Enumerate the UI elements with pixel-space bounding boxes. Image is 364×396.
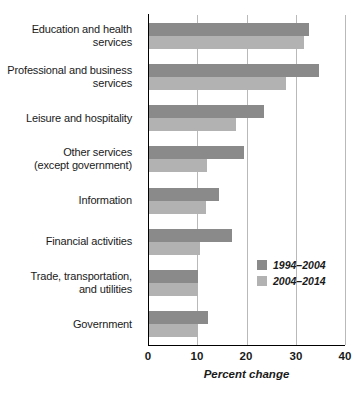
bar (148, 23, 309, 36)
x-tick-20: 20 (240, 350, 253, 362)
category-label-financial-activities: Financial activities (46, 235, 132, 248)
bar (148, 146, 244, 159)
x-tick-10: 10 (191, 350, 204, 362)
legend-swatch-icon-1994-2004 (257, 260, 267, 270)
legend-item-2004-2014: 2004–2014 (257, 274, 326, 288)
legend: 1994–2004 2004–2014 (257, 258, 326, 290)
bar (148, 201, 206, 214)
x-tick-40: 40 (339, 350, 352, 362)
legend-swatch-icon-2004-2014 (257, 276, 267, 286)
bar (148, 311, 208, 324)
x-axis-line (148, 345, 345, 346)
category-label-leisure-and-hospitality: Leisure and hospitality (26, 112, 132, 125)
x-tick-0: 0 (145, 350, 151, 362)
x-axis-title: Percent change (148, 368, 345, 380)
bar (148, 36, 304, 49)
category-label-government: Government (73, 318, 132, 331)
bar (148, 77, 286, 90)
legend-label-2004-2014: 2004–2014 (273, 275, 326, 287)
bar-group (148, 229, 345, 255)
bar (148, 188, 219, 201)
bar-group (148, 146, 345, 172)
bar-group (148, 311, 345, 337)
bar (148, 242, 200, 255)
bar (148, 229, 232, 242)
bar-group (148, 64, 345, 90)
plot-area (148, 15, 345, 345)
gridline-40 (345, 15, 346, 345)
bar-group (148, 23, 345, 49)
category-label-other-services-except-government: Other services (except government) (34, 146, 132, 172)
bar (148, 270, 198, 283)
bar (148, 159, 207, 172)
category-label-information: Information (79, 194, 132, 207)
category-label-trade-transportation-and-utilities: Trade, transportation, and utilities (31, 270, 132, 296)
bar (148, 105, 264, 118)
bar (148, 118, 236, 131)
bar-group (148, 188, 345, 214)
legend-label-1994-2004: 1994–2004 (273, 259, 326, 271)
bar (148, 64, 319, 77)
x-tick-30: 30 (290, 350, 303, 362)
bar-group (148, 105, 345, 131)
bar (148, 283, 198, 296)
category-label-professional-and-business-services: Professional and business services (7, 64, 132, 90)
legend-item-1994-2004: 1994–2004 (257, 258, 326, 272)
category-label-column: Education and health services Profession… (0, 15, 141, 345)
category-label-education-and-health-services: Education and health services (32, 23, 132, 49)
y-axis-line (148, 14, 149, 346)
bar-chart: Education and health services Profession… (0, 0, 364, 396)
bar (148, 324, 198, 337)
